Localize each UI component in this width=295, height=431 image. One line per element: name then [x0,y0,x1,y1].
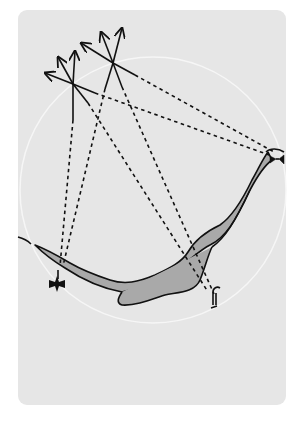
navigation-diagram [0,0,295,431]
bearing-lines [60,75,274,294]
observer-b-compass-arrows-icon [81,28,135,89]
coastline-shoal [35,152,272,292]
cross-icon [49,270,65,292]
